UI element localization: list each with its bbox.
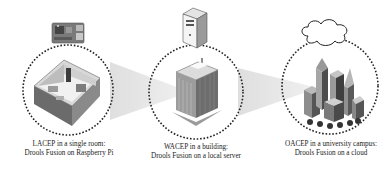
city-campus-icon	[304, 58, 364, 129]
raspberry-pi-icon	[52, 23, 84, 43]
oacep-caption: OACEP in a university campus: Drools Fus…	[285, 140, 377, 158]
server-icon	[183, 8, 207, 48]
lacep-caption: LACEP in a single room: Drools Fusion on…	[24, 140, 113, 158]
wacep-caption-line2: Drools Fusion on a local server	[151, 152, 241, 161]
wacep-caption-line1: WACEP in a building:	[151, 143, 241, 152]
room-icon	[34, 60, 100, 126]
cloud-icon	[302, 20, 347, 46]
oacep-caption-line2: Drools Fusion on a cloud	[285, 149, 377, 158]
building-icon	[172, 58, 222, 126]
wacep-caption: WACEP in a building: Drools Fusion on a …	[151, 143, 241, 161]
oacep-caption-line1: OACEP in a university campus:	[285, 140, 377, 149]
lacep-caption-line2: Drools Fusion on Raspberry Pi	[24, 149, 113, 158]
lacep-caption-line1: LACEP in a single room:	[24, 140, 113, 149]
